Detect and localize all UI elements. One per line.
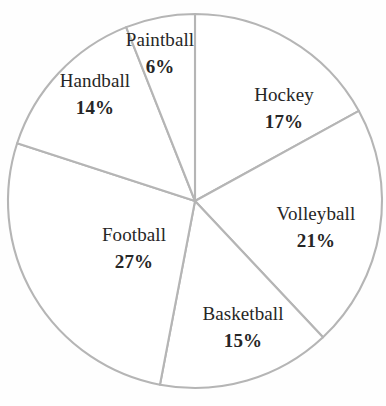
pie-label-handball-name: Handball — [35, 68, 155, 93]
pie-label-hockey: Hockey 17% — [228, 82, 340, 134]
pie-label-volleyball: Volleyball 21% — [250, 201, 382, 253]
pie-label-basketball-value: 15% — [180, 328, 306, 353]
pie-label-hockey-value: 17% — [228, 109, 340, 134]
pie-label-basketball-name: Basketball — [180, 301, 306, 326]
pie-label-paintball-name: Paintball — [105, 27, 215, 52]
pie-label-basketball: Basketball 15% — [180, 301, 306, 353]
pie-label-football: Football 27% — [76, 222, 192, 274]
pie-label-volleyball-name: Volleyball — [250, 201, 382, 226]
pie-chart: Paintball 6% Handball 14% Hockey 17% Vol… — [0, 0, 386, 406]
pie-label-volleyball-value: 21% — [250, 228, 382, 253]
pie-label-handball: Handball 14% — [35, 68, 155, 120]
pie-label-football-name: Football — [76, 222, 192, 247]
pie-label-handball-value: 14% — [35, 95, 155, 120]
pie-label-hockey-name: Hockey — [228, 82, 340, 107]
pie-label-football-value: 27% — [76, 249, 192, 274]
